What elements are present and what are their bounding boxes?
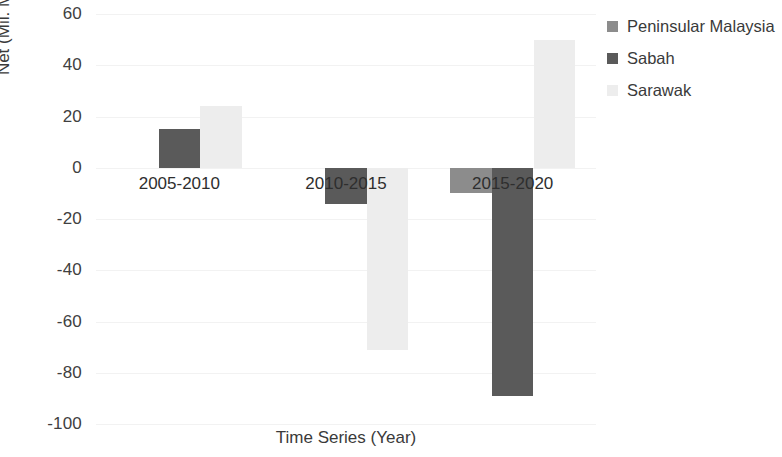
y-axis-tick-label: -40 bbox=[20, 261, 82, 278]
bar-sarawak-2010-2015 bbox=[367, 168, 409, 350]
y-axis-tick-label: 40 bbox=[20, 56, 82, 73]
y-axis-title: Net (Mil. Mg CO2) bbox=[0, 0, 16, 118]
y-axis-title-prefix: Net (Mil. Mg CO bbox=[0, 0, 13, 75]
bar-sarawak-2015-2020 bbox=[534, 40, 576, 168]
x-axis-tick-label: 2015-2020 bbox=[429, 175, 596, 192]
legend-item-sabah[interactable]: Sabah bbox=[607, 42, 782, 74]
y-axis-tick-label: 0 bbox=[20, 159, 82, 176]
x-axis-tick-label: 2010-2015 bbox=[263, 175, 430, 192]
y-axis-tick-label: -100 bbox=[20, 415, 82, 432]
bar-chart: Net (Mil. Mg CO2) 6040200-20-40-60-80-10… bbox=[0, 0, 782, 457]
legend: Peninsular MalaysiaSabahSarawak bbox=[607, 10, 782, 106]
y-axis-tick-label: 60 bbox=[20, 5, 82, 22]
y-axis-tick-label: 20 bbox=[20, 108, 82, 125]
x-axis-title: Time Series (Year) bbox=[96, 428, 596, 448]
legend-swatch-icon bbox=[607, 85, 618, 96]
legend-item-label: Sabah bbox=[627, 50, 675, 67]
y-axis-tick-label: -60 bbox=[20, 313, 82, 330]
legend-item-label: Peninsular Malaysia bbox=[627, 18, 775, 35]
legend-item-peninsular-malaysia[interactable]: Peninsular Malaysia bbox=[607, 10, 782, 42]
gridline bbox=[96, 424, 596, 425]
plot-area bbox=[96, 14, 596, 424]
legend-swatch-icon bbox=[607, 53, 618, 64]
y-axis-tick-label: -20 bbox=[20, 210, 82, 227]
bar-sarawak-2005-2010 bbox=[200, 106, 242, 168]
bar-sabah-2005-2010 bbox=[159, 129, 201, 167]
x-axis-tick-label: 2005-2010 bbox=[96, 175, 263, 192]
y-axis-tick-label: -80 bbox=[20, 364, 82, 381]
bar-sabah-2015-2020 bbox=[492, 168, 534, 396]
legend-swatch-icon bbox=[607, 21, 618, 32]
legend-item-label: Sarawak bbox=[627, 82, 691, 99]
legend-item-sarawak[interactable]: Sarawak bbox=[607, 74, 782, 106]
